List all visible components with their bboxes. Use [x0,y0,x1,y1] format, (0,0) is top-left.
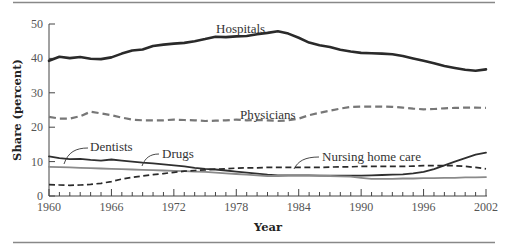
y-tick-label: 40 [31,51,43,65]
y-axis: 01020304050 [31,17,55,203]
y-tick-label: 10 [31,155,43,169]
x-tick-label: 1990 [349,200,373,214]
y-tick-label: 30 [31,86,43,100]
x-tick-label: 1996 [412,200,436,214]
x-tick-label: 2002 [474,200,498,214]
x-axis: 19601966197219781984199019962002 [37,189,498,214]
series-hospitals-line [49,31,486,71]
y-tick-label: 50 [31,17,43,31]
x-tick-label: 1966 [99,200,123,214]
label-physicians: Physicians [240,107,296,122]
label-drugs: Drugs [162,146,194,161]
label-nursing-home-care: Nursing home care [322,149,421,164]
x-tick-label: 1972 [162,200,186,214]
x-axis-title: Year [253,220,283,234]
label-dentists: Dentists [90,139,133,154]
label-hospitals: Hospitals [216,21,265,36]
y-axis-title: Share (percent) [10,59,24,161]
leader-dentists [64,148,88,164]
x-tick-label: 1960 [37,200,61,214]
line-chart: 01020304050 1960196619721978198419901996… [0,0,507,247]
x-tick-label: 1978 [224,200,248,214]
x-tick-label: 1984 [287,200,311,214]
y-tick-label: 20 [31,120,43,134]
